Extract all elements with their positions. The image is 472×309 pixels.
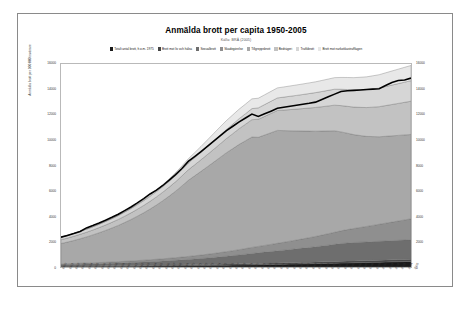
y-tick-label: 2000 (416, 240, 423, 244)
y-tick-label: 0 (54, 266, 56, 270)
chart-title: Anmälda brott per capita 1950-2005 (0, 26, 472, 35)
y-tick-label: 14000 (416, 87, 425, 91)
y-tick-label: 8000 (49, 164, 56, 168)
y-tick-label: 4000 (49, 215, 56, 219)
legend-label: Bedrägeri (279, 47, 292, 51)
legend-swatch-icon (220, 47, 223, 50)
y-axis-left: 0200040006000800010000120001400016000 (22, 63, 58, 268)
legend-item: Bedrägeri (274, 47, 292, 51)
plot-area (60, 63, 412, 268)
legend-label: Skadegörelse (224, 47, 243, 51)
legend-label: Sexualbrott (200, 47, 215, 51)
legend-swatch-icon (158, 47, 161, 50)
legend-item: Brott mot narkotikastrafflagen (318, 47, 362, 51)
y-tick-label: 16000 (416, 61, 425, 65)
y-tick-label: 6000 (416, 189, 423, 193)
y-tick-label: 10000 (416, 138, 425, 142)
legend-item: Sexualbrott (196, 47, 216, 51)
legend-item: Totalt antal brott, fr.o.m. 1975 (110, 47, 154, 51)
legend-swatch-icon (274, 47, 277, 50)
legend-item: Skadegörelse (220, 47, 243, 51)
chart-page: Anmälda brott per capita 1950-2005 Källa… (0, 0, 472, 309)
legend-swatch-icon (318, 47, 321, 50)
x-axis: 1950195119521953195419551956195719581959… (60, 268, 412, 298)
legend-label: Totalt antal brott, fr.o.m. 1975 (114, 47, 153, 51)
legend-item: Trafikbrott (296, 47, 314, 51)
y-axis-right: 0200040006000800010000120001400016000 (414, 63, 450, 268)
legend-swatch-icon (247, 47, 250, 50)
chart-legend: Totalt antal brott, fr.o.m. 1975Brott mo… (0, 47, 472, 51)
legend-label: Brott mot narkotikastrafflagen (322, 47, 362, 51)
y-tick-label: 12000 (416, 112, 425, 116)
legend-item: Brott mot liv och hälsa (158, 47, 192, 51)
y-tick-label: 2000 (49, 240, 56, 244)
y-tick-label: 14000 (47, 87, 56, 91)
legend-swatch-icon (196, 47, 199, 50)
y-tick-label: 8000 (416, 164, 423, 168)
y-tick-label: 4000 (416, 215, 423, 219)
legend-swatch-icon (296, 47, 299, 50)
chart-subtitle: Källa: BRÅ (2005) (0, 38, 472, 42)
y-tick-label: 16000 (47, 61, 56, 65)
legend-label: Brott mot liv och hälsa (162, 47, 192, 51)
y-tick-label: 10000 (47, 138, 56, 142)
y-tick-label: 12000 (47, 112, 56, 116)
y-tick-label: 6000 (49, 189, 56, 193)
legend-label: Trafikbrott (300, 47, 314, 51)
legend-item: Tillgreppsbrott (247, 47, 271, 51)
legend-swatch-icon (110, 47, 113, 50)
legend-label: Tillgreppsbrott (251, 47, 270, 51)
stacked-area-svg (61, 64, 411, 267)
